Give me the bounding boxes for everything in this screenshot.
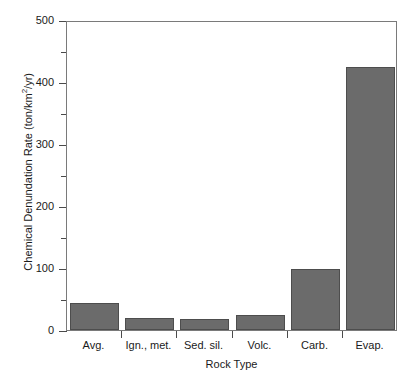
y-axis-tick-major	[59, 331, 67, 332]
y-axis-title-tail: /yr)	[22, 73, 34, 89]
y-axis-tick-label: 0	[14, 325, 54, 336]
x-axis-tick	[232, 331, 233, 338]
bar	[70, 303, 119, 330]
x-axis-tick	[121, 331, 122, 338]
y-axis-title-main: Chemical Denundation Rate (ton/km	[22, 93, 34, 270]
x-axis-tick-label: Evap.	[342, 340, 397, 351]
y-axis-tick-label: 500	[14, 15, 54, 26]
x-axis-tick-label: Carb.	[287, 340, 342, 351]
bar-chart: 0100200300400500 Avg.Ign., met.Sed. sil.…	[0, 0, 416, 384]
x-axis-tick-label: Sed. sil.	[176, 340, 231, 351]
bars-layer	[67, 22, 396, 330]
bar	[236, 315, 285, 330]
plot-area	[66, 21, 397, 331]
x-axis-tick-label: Avg.	[66, 340, 121, 351]
x-axis-tick-label: Volc.	[232, 340, 287, 351]
bar	[125, 318, 174, 330]
bar	[291, 269, 340, 330]
x-axis-tick	[176, 331, 177, 338]
x-axis-tick	[287, 331, 288, 338]
y-axis-title-superscript: 2	[20, 89, 29, 93]
y-axis-title: Chemical Denundation Rate (ton/km2/yr)	[20, 47, 34, 297]
x-axis-tick	[342, 331, 343, 338]
x-axis-tick-label: Ign., met.	[121, 340, 176, 351]
bar	[180, 319, 229, 330]
x-axis-title: Rock Type	[66, 358, 397, 370]
bar	[346, 67, 395, 330]
